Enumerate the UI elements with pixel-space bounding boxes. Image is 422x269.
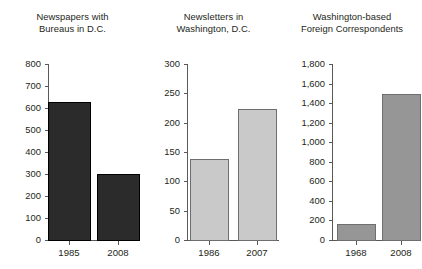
y-tick-label: 800 xyxy=(309,156,325,167)
y-tick-label: 0 xyxy=(175,234,180,245)
y-tick-label: 200 xyxy=(25,190,41,201)
y-tick-label: 0 xyxy=(36,234,41,245)
y-tick-label: 1,400 xyxy=(302,97,325,108)
y-tick-label: 400 xyxy=(25,146,41,157)
y-tick-label: 600 xyxy=(309,175,325,186)
y-tick-label: 1,200 xyxy=(302,117,325,128)
y-tick-label: 150 xyxy=(164,146,180,157)
x-category-label: 1968 xyxy=(345,247,366,258)
y-tick-label: 1,800 xyxy=(302,58,325,69)
bar xyxy=(97,174,139,240)
y-tick-label: 200 xyxy=(164,117,180,128)
y-tick-label: 300 xyxy=(164,58,180,69)
y-tick-label: 100 xyxy=(25,212,41,223)
bar-chart-svg: 05010015020025030019862007 xyxy=(145,0,282,269)
y-tick-label: 300 xyxy=(25,168,41,179)
panel-plot: 02004006008001,0001,2001,4001,6001,80019… xyxy=(282,0,422,269)
bar-chart-svg: 02004006008001,0001,2001,4001,6001,80019… xyxy=(282,0,422,269)
bar xyxy=(337,224,375,240)
x-category-label: 2007 xyxy=(246,247,267,258)
x-category-label: 2008 xyxy=(390,247,411,258)
chart-panel-newspapers: Newspapers with Bureaus in D.C. 01002003… xyxy=(0,0,145,269)
panel-plot: 010020030040050060070080019852008 xyxy=(0,0,145,269)
panel-plot: 05010015020025030019862007 xyxy=(145,0,282,269)
bar xyxy=(238,110,276,240)
y-tick-label: 1,000 xyxy=(302,136,325,147)
x-category-label: 2008 xyxy=(107,247,128,258)
bar xyxy=(382,94,420,240)
y-tick-label: 200 xyxy=(309,214,325,225)
bar xyxy=(190,160,228,240)
chart-figure: Newspapers with Bureaus in D.C. 01002003… xyxy=(0,0,422,269)
chart-panel-newsletters: Newsletters in Washington, D.C. 05010015… xyxy=(145,0,282,269)
bar xyxy=(48,103,90,241)
y-tick-label: 250 xyxy=(164,87,180,98)
y-tick-label: 500 xyxy=(25,124,41,135)
y-tick-label: 800 xyxy=(25,58,41,69)
y-tick-label: 400 xyxy=(309,195,325,206)
y-tick-label: 1,600 xyxy=(302,78,325,89)
y-tick-label: 0 xyxy=(320,234,325,245)
chart-panel-correspondents: Washington-based Foreign Correspondents … xyxy=(282,0,422,269)
x-category-label: 1985 xyxy=(58,247,79,258)
y-tick-label: 700 xyxy=(25,80,41,91)
x-category-label: 1986 xyxy=(198,247,219,258)
bar-chart-svg: 010020030040050060070080019852008 xyxy=(0,0,145,269)
y-tick-label: 600 xyxy=(25,102,41,113)
y-tick-label: 50 xyxy=(170,205,180,216)
y-tick-label: 100 xyxy=(164,175,180,186)
